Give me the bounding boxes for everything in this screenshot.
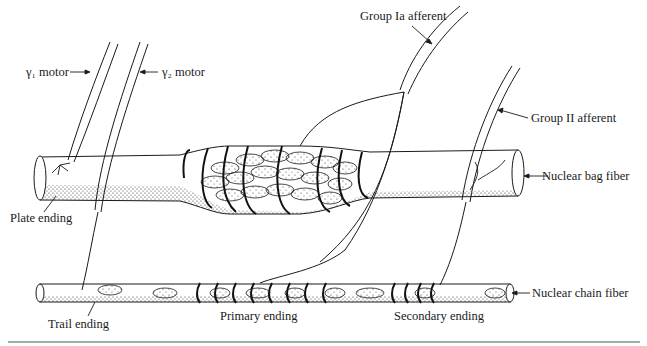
nuclear-chain-fiber	[36, 284, 514, 302]
label-secondary-ending: Secondary ending	[394, 310, 484, 323]
label-gamma1-motor: γ₁ motor	[26, 66, 69, 79]
label-nuclear-chain-fiber: Nuclear chain fiber	[532, 287, 628, 300]
label-group-ia-afferent: Group Ia afferent	[360, 10, 447, 23]
label-trail-ending: Trail ending	[48, 318, 109, 331]
label-nuclear-bag-fiber: Nuclear bag fiber	[542, 170, 629, 183]
muscle-spindle-diagram: γ₁ motor γ₂ motor Group Ia afferent Grou…	[0, 0, 647, 346]
label-group-ii-afferent: Group II afferent	[531, 112, 616, 125]
label-plate-ending: Plate ending	[10, 212, 72, 225]
label-primary-ending: Primary ending	[220, 310, 297, 323]
label-gamma2-motor: γ₂ motor	[162, 66, 205, 79]
